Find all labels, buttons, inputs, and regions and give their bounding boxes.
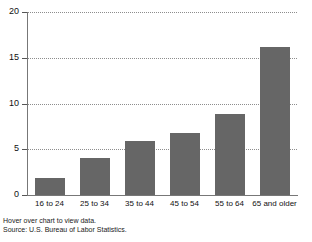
chart-widget: 20151050 16 to 2425 to 3435 to 4445 to 5…: [0, 0, 312, 242]
x-axis-line: [27, 195, 298, 196]
y-axis-tick-label: 5: [0, 144, 19, 153]
plot-area[interactable]: 20151050: [27, 12, 297, 195]
hover-hint: Hover over chart to view data.: [3, 216, 127, 225]
bar[interactable]: [260, 47, 290, 195]
x-axis-tick-label: 25 to 34: [80, 199, 109, 209]
x-axis-tick-label: 16 to 24: [35, 199, 64, 209]
source-note: Source: U.S. Bureau of Labor Statistics.: [3, 225, 127, 234]
y-axis-tick-label: 15: [0, 53, 19, 62]
x-axis-tick-label: 65 and older: [252, 199, 296, 209]
bars-group: [27, 12, 297, 195]
bar[interactable]: [125, 141, 155, 195]
chart-footer: Hover over chart to view data. Source: U…: [3, 216, 127, 234]
x-axis-tick-label: 45 to 54: [170, 199, 199, 209]
x-axis-tick-label: 55 to 64: [215, 199, 244, 209]
x-axis-tick-label: 35 to 44: [125, 199, 154, 209]
y-axis-tick-label: 0: [0, 190, 19, 199]
bar[interactable]: [170, 133, 200, 195]
bar[interactable]: [35, 178, 65, 195]
bar[interactable]: [215, 114, 245, 195]
y-axis-tick-label: 10: [0, 99, 19, 108]
y-axis-tick-label: 20: [0, 7, 19, 16]
x-axis-labels: 16 to 2425 to 3435 to 4445 to 5455 to 64…: [22, 199, 312, 213]
bar[interactable]: [80, 158, 110, 196]
